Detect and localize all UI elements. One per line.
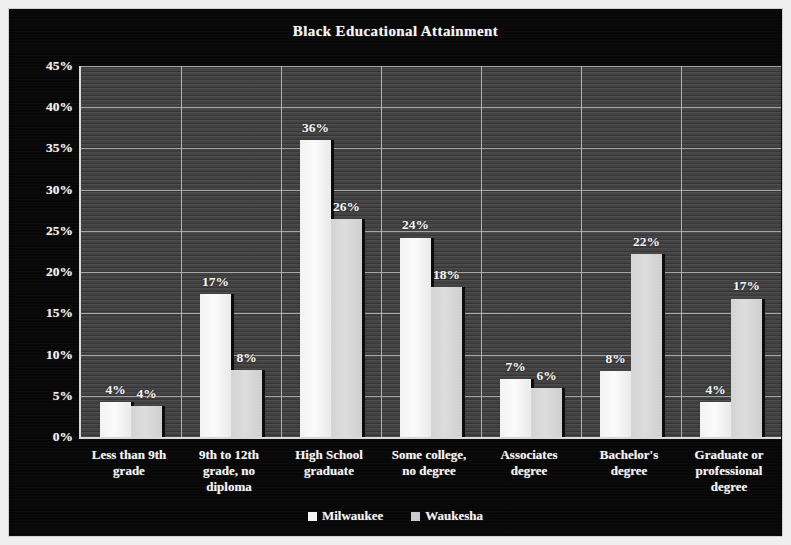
x-axis-category-label-2: High Schoolgraduate (279, 447, 379, 479)
bar-waukesha-2 (331, 219, 362, 437)
chart-title: Black Educational Attainment (9, 23, 782, 40)
bar-value-label: 4% (136, 386, 156, 402)
category-divider-line (681, 66, 682, 437)
x-axis-category-label-5: Bachelor'sdegree (579, 447, 679, 479)
bar-value-label: 22% (633, 234, 660, 250)
gridline (81, 66, 781, 67)
bar-value-label: 8% (605, 351, 625, 367)
x-axis-label-line: Graduate or (679, 447, 779, 463)
y-axis-tick-label: 5% (17, 388, 73, 404)
y-axis-tick-label: 45% (17, 58, 73, 74)
bar-waukesha-6 (731, 299, 762, 438)
bar-milwaukee-0 (100, 402, 131, 437)
bar-value-label: 4% (705, 382, 725, 398)
y-axis-tick-label: 10% (17, 347, 73, 363)
bar-milwaukee-5 (600, 371, 631, 437)
bar-waukesha-5 (631, 254, 662, 437)
x-axis-label-line: 9th to 12th (179, 447, 279, 463)
x-axis-label-line: Some college, (379, 447, 479, 463)
bar-waukesha-0 (131, 406, 162, 437)
x-axis-label-line: High School (279, 447, 379, 463)
bar-value-label: 17% (202, 274, 229, 290)
bar-value-label: 26% (333, 199, 360, 215)
bar-milwaukee-3 (400, 238, 431, 438)
bar-value-label: 18% (433, 267, 460, 283)
gridline (81, 231, 781, 232)
y-axis: 0%5%10%15%20%25%30%35%40%45% (9, 66, 73, 437)
bar-value-label: 17% (733, 278, 760, 294)
chart-card: Black Educational Attainment 0%5%10%15%2… (8, 8, 783, 537)
gridline (81, 107, 781, 108)
gridline (81, 148, 781, 149)
bar-value-label: 36% (302, 120, 329, 136)
x-axis-category-label-6: Graduate orprofessionaldegree (679, 447, 779, 495)
bar-waukesha-1 (231, 370, 262, 437)
legend-label: Milwaukee (322, 508, 383, 524)
x-axis-label-line: diploma (179, 479, 279, 495)
category-divider-line (181, 66, 182, 437)
x-axis: Less than 9thgrade9th to 12thgrade, nodi… (79, 447, 779, 513)
bar-value-label: 8% (236, 350, 256, 366)
bar-milwaukee-4 (500, 379, 531, 437)
category-divider-line (281, 66, 282, 437)
y-axis-tick-label: 35% (17, 140, 73, 156)
x-axis-label-line: grade (79, 463, 179, 479)
x-axis-category-label-1: 9th to 12thgrade, nodiploma (179, 447, 279, 495)
x-axis-label-line: Associates (479, 447, 579, 463)
gridline (81, 272, 781, 273)
bar-milwaukee-6 (700, 402, 731, 437)
legend-item-milwaukee[interactable]: Milwaukee (308, 508, 383, 524)
x-axis-category-label-3: Some college,no degree (379, 447, 479, 479)
x-axis-category-label-4: Associatesdegree (479, 447, 579, 479)
x-axis-label-line: degree (479, 463, 579, 479)
legend-item-waukesha[interactable]: Waukesha (411, 508, 483, 524)
y-axis-tick-label: 15% (17, 305, 73, 321)
x-axis-label-line: no degree (379, 463, 479, 479)
legend-swatch-icon (308, 512, 317, 521)
category-divider-line (481, 66, 482, 437)
gridline (81, 190, 781, 191)
legend-label: Waukesha (425, 508, 483, 524)
category-divider-line (381, 66, 382, 437)
bar-value-label: 6% (536, 368, 556, 384)
bar-value-label: 24% (402, 217, 429, 233)
bar-waukesha-3 (431, 287, 462, 437)
bar-milwaukee-2 (300, 140, 331, 437)
category-divider-line (581, 66, 582, 437)
x-axis-label-line: degree (679, 479, 779, 495)
y-axis-tick-label: 0% (17, 429, 73, 445)
x-axis-label-line: grade, no (179, 463, 279, 479)
x-axis-label-line: professional (679, 463, 779, 479)
y-axis-tick-label: 25% (17, 223, 73, 239)
x-axis-label-line: Bachelor's (579, 447, 679, 463)
y-axis-tick-label: 30% (17, 182, 73, 198)
y-axis-tick-label: 20% (17, 264, 73, 280)
y-axis-tick-label: 40% (17, 99, 73, 115)
bar-value-label: 4% (105, 382, 125, 398)
chart-figure: Black Educational Attainment 0%5%10%15%2… (0, 0, 791, 545)
bar-value-label: 7% (505, 359, 525, 375)
plot-area: 4%4%17%8%36%26%24%18%7%6%8%22%4%17% (79, 66, 781, 439)
bar-waukesha-4 (531, 388, 562, 437)
x-axis-label-line: degree (579, 463, 679, 479)
x-axis-category-label-0: Less than 9thgrade (79, 447, 179, 479)
x-axis-label-line: Less than 9th (79, 447, 179, 463)
chart-legend: MilwaukeeWaukesha (9, 508, 782, 524)
x-axis-label-line: graduate (279, 463, 379, 479)
legend-swatch-icon (411, 512, 420, 521)
bar-milwaukee-1 (200, 294, 231, 437)
